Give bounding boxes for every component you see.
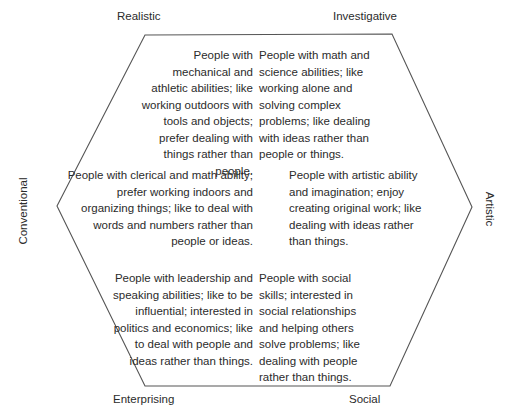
description-investigative: People with math and science abilities; … [259,47,387,163]
side-label-artistic: Artistic [483,182,497,236]
description-realistic: People with mechanical and athletic abil… [133,47,253,179]
holland-hexagon-diagram: Realistic Investigative Enterprising Soc… [0,0,505,419]
description-enterprising: People with leadership and speaking abil… [113,270,253,369]
side-label-conventional: Conventional [16,176,30,246]
vertex-label-enterprising: Enterprising [113,392,174,406]
description-social: People with social skills; interested in… [259,270,373,386]
description-conventional: People with clerical and math ability; p… [63,167,253,250]
vertex-label-investigative: Investigative [333,9,397,23]
vertex-label-realistic: Realistic [117,9,160,23]
vertex-label-social: Social [349,392,380,406]
description-artistic: People with artistic ability and imagina… [289,167,429,250]
